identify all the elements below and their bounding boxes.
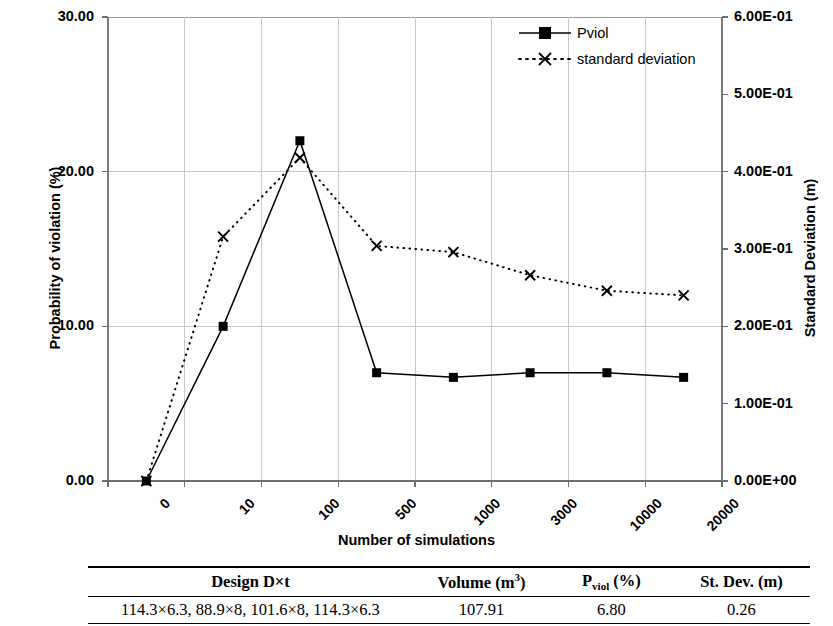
table-cell-stdev: 0.26 xyxy=(673,596,810,623)
y-axis-right-tick-label: 5.00E-01 xyxy=(734,86,833,101)
chart-page: Probability of violation (%) Standard De… xyxy=(0,0,833,626)
table-header-volume: Volume (m3) xyxy=(413,567,550,596)
table-row: 114.3×6.3, 88.9×8, 101.6×8, 114.3×6.3 10… xyxy=(88,596,810,623)
y-axis-left-title: Probability of violation (%) xyxy=(47,98,63,418)
table-header-stdev: St. Dev. (m) xyxy=(673,567,810,596)
summary-table: Design D×t Volume (m3) Pviol (%) St. Dev… xyxy=(88,566,810,624)
y-axis-right-tick-label: 4.00E-01 xyxy=(734,164,833,179)
table-header-row: Design D×t Volume (m3) Pviol (%) St. Dev… xyxy=(88,567,810,596)
table-cell-design: 114.3×6.3, 88.9×8, 101.6×8, 114.3×6.3 xyxy=(88,596,413,623)
legend-key-dotted-cross-icon xyxy=(517,49,573,69)
y-axis-left-tick-label: 0.00 xyxy=(4,473,94,488)
table-header-design: Design D×t xyxy=(88,567,413,596)
chart-figure: Probability of violation (%) Standard De… xyxy=(0,0,833,562)
y-axis-left-tick-label: 10.00 xyxy=(4,318,94,333)
y-axis-left-tick-label: 30.00 xyxy=(4,9,94,24)
table-header-pviol: Pviol (%) xyxy=(550,567,673,596)
legend-label-standard-deviation: standard deviation xyxy=(577,51,696,67)
y-axis-right-tick-label: 0.00E+00 xyxy=(734,473,833,488)
table-header-pviol-unit: (%) xyxy=(609,571,641,590)
table-header-pviol-text: P xyxy=(582,571,592,590)
y-axis-right-tick-label: 3.00E-01 xyxy=(734,241,833,256)
chart-legend: Pviol standard deviation xyxy=(517,20,767,72)
y-axis-left-tick-label: 20.00 xyxy=(4,164,94,179)
y-axis-right-tick-label: 1.00E-01 xyxy=(734,396,833,411)
plot-canvas xyxy=(0,0,833,562)
table-header-volume-close: ) xyxy=(520,573,526,592)
table-cell-volume: 107.91 xyxy=(413,596,550,623)
y-axis-right-tick-label: 2.00E-01 xyxy=(734,318,833,333)
y-axis-right-title: Standard Deviation (m) xyxy=(802,98,818,418)
legend-item-standard-deviation[interactable]: standard deviation xyxy=(517,46,767,72)
table-header-pviol-subscript: viol xyxy=(592,580,609,592)
legend-item-pviol[interactable]: Pviol xyxy=(517,20,767,46)
x-axis-title: Number of simulations xyxy=(0,532,833,548)
legend-label-pviol: Pviol xyxy=(577,25,608,41)
legend-key-solid-square-icon xyxy=(517,23,573,43)
table-cell-pviol: 6.80 xyxy=(550,596,673,623)
summary-table-container: Design D×t Volume (m3) Pviol (%) St. Dev… xyxy=(88,566,810,624)
table-header-volume-text: Volume (m xyxy=(438,573,515,592)
